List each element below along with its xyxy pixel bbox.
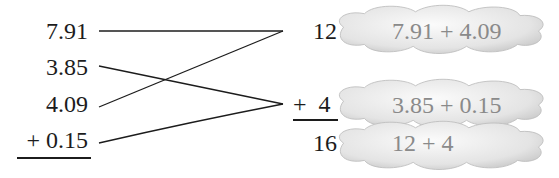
total-sum: 16 bbox=[313, 131, 337, 155]
sum-rule-right bbox=[293, 119, 338, 121]
cloud-expression-1: 7.91 + 4.09 bbox=[392, 19, 502, 43]
cloud-expression-2: 3.85 + 0.15 bbox=[392, 93, 502, 117]
partial-sum-1: 12 bbox=[313, 19, 337, 43]
partial-sum-2: + 4 bbox=[293, 92, 331, 116]
cloud-expression-3: 12 + 4 bbox=[392, 131, 454, 155]
